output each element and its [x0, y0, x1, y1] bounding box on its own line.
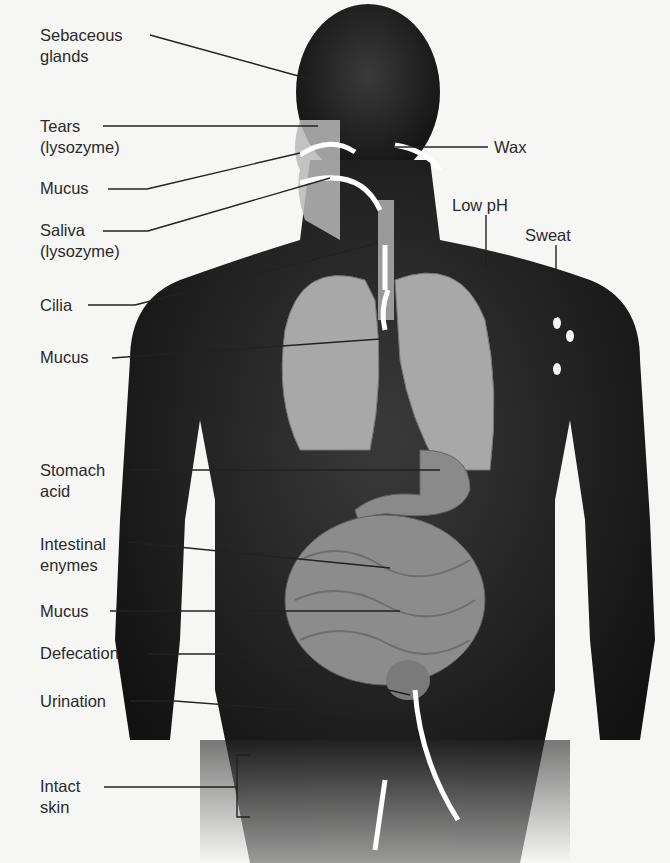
label-text: skin: [40, 797, 80, 818]
label-saliva: Saliva (lysozyme): [40, 220, 120, 262]
label-text: Saliva: [40, 220, 120, 241]
label-text: Stomach: [40, 460, 105, 481]
label-sweat: Sweat: [525, 225, 571, 246]
label-text: Cilia: [40, 295, 72, 316]
label-mucus-gut: Mucus: [40, 601, 89, 622]
intestines: [285, 515, 485, 685]
label-text: Defecation: [40, 643, 119, 664]
label-sebaceous-glands: Sebaceous glands: [40, 25, 123, 67]
label-tears: Tears (lysozyme): [40, 116, 120, 158]
label-text: Intestinal: [40, 534, 106, 555]
label-cilia: Cilia: [40, 295, 72, 316]
label-text: Intact: [40, 776, 80, 797]
label-mucus-nose: Mucus: [40, 178, 89, 199]
label-stomach-acid: Stomach acid: [40, 460, 105, 502]
body-defenses-figure: Sebaceous glands Tears (lysozyme) Mucus …: [0, 0, 670, 863]
label-text: Urination: [40, 691, 106, 712]
left-lung: [282, 276, 379, 450]
label-text: Mucus: [40, 347, 89, 368]
label-low-ph: Low pH: [452, 195, 508, 216]
label-text: Sebaceous: [40, 25, 123, 46]
label-text: enymes: [40, 555, 106, 576]
label-text: (lysozyme): [40, 137, 120, 158]
label-mucus-lungs: Mucus: [40, 347, 89, 368]
label-urination: Urination: [40, 691, 106, 712]
label-defecation: Defecation: [40, 643, 119, 664]
label-intestinal-enzymes: Intestinal enymes: [40, 534, 106, 576]
label-text: acid: [40, 481, 105, 502]
label-wax: Wax: [494, 137, 526, 158]
label-text: Tears: [40, 116, 120, 137]
label-text: Mucus: [40, 178, 89, 199]
label-text: (lysozyme): [40, 241, 120, 262]
label-text: glands: [40, 46, 123, 67]
label-intact-skin: Intact skin: [40, 776, 80, 818]
label-text: Mucus: [40, 601, 89, 622]
